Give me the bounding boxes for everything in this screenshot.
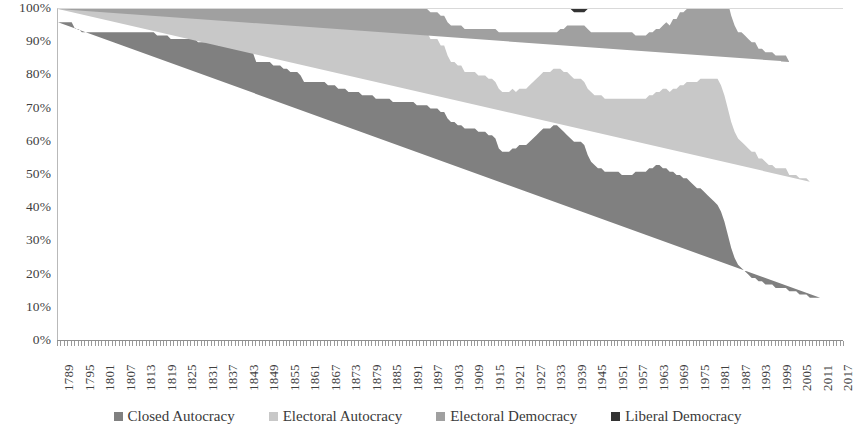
- legend-item[interactable]: Electoral Democracy: [436, 409, 577, 424]
- x-tick-mark: [406, 341, 407, 346]
- x-tick-mark: [751, 341, 752, 346]
- x-tick-mark: [836, 341, 837, 346]
- x-tick-mark: [115, 341, 116, 346]
- legend-item[interactable]: Closed Autocracy: [114, 409, 235, 424]
- x-tick-mark: [474, 341, 475, 346]
- x-tick-mark: [67, 341, 68, 346]
- x-tick-mark: [194, 341, 195, 346]
- x-tick-mark: [190, 341, 191, 346]
- x-tick-mark: [498, 341, 499, 346]
- x-tick-mark: [621, 341, 622, 346]
- x-tick-mark: [730, 341, 731, 346]
- x-tick-label: 2005: [800, 364, 813, 391]
- x-tick-mark: [805, 341, 806, 346]
- x-tick-mark: [201, 341, 202, 346]
- x-tick-mark: [436, 341, 437, 346]
- legend-item[interactable]: Liberal Democracy: [611, 409, 741, 424]
- x-tick-label: 1945: [595, 364, 608, 391]
- x-tick-mark: [587, 341, 588, 346]
- x-tick-mark: [812, 341, 813, 346]
- x-tick-label: 1951: [616, 364, 629, 391]
- x-tick-mark: [283, 341, 284, 346]
- x-tick-mark: [641, 341, 642, 346]
- x-tick-mark: [754, 341, 755, 346]
- x-tick-mark: [224, 341, 225, 346]
- x-tick-mark: [488, 341, 489, 346]
- x-tick-mark: [91, 341, 92, 346]
- x-tick-mark: [310, 341, 311, 346]
- legend-item[interactable]: Electoral Autocracy: [269, 409, 403, 424]
- y-tick-label: 70%: [26, 101, 51, 115]
- x-tick-mark: [122, 341, 123, 346]
- legend-label: Closed Autocracy: [128, 409, 235, 424]
- x-tick-mark: [816, 341, 817, 346]
- x-tick-mark: [617, 341, 618, 346]
- x-tick-mark: [296, 341, 297, 346]
- x-tick-mark: [279, 341, 280, 346]
- x-tick-mark: [471, 341, 472, 346]
- x-tick-mark: [57, 341, 58, 346]
- x-tick-mark: [696, 341, 697, 346]
- legend-swatch-icon: [114, 412, 123, 421]
- x-tick-mark: [248, 341, 249, 346]
- x-tick-mark: [576, 341, 577, 346]
- x-tick-mark: [529, 341, 530, 346]
- x-tick-mark: [313, 341, 314, 346]
- x-tick-label: 1885: [390, 364, 403, 391]
- x-tick-mark: [149, 341, 150, 346]
- x-tick-mark: [330, 341, 331, 346]
- x-tick-mark: [501, 341, 502, 346]
- x-tick-label: 1789: [62, 364, 75, 391]
- x-tick-label: 1957: [636, 364, 649, 391]
- x-tick-label: 1921: [513, 364, 526, 391]
- x-tick-label: 1915: [493, 364, 506, 391]
- x-tick-mark: [108, 341, 109, 346]
- x-tick-label: 1927: [534, 364, 547, 391]
- x-tick-mark: [508, 341, 509, 346]
- x-tick-mark: [412, 341, 413, 346]
- x-tick-mark: [556, 341, 557, 346]
- x-tick-mark: [799, 341, 800, 346]
- x-tick-label: 1999: [780, 364, 793, 391]
- x-axis-labels: 1789179518011807181318191825183118371843…: [57, 347, 843, 397]
- x-tick-mark: [566, 341, 567, 346]
- x-tick-mark: [334, 341, 335, 346]
- x-tick-label: 1873: [349, 364, 362, 391]
- x-tick-label: 1903: [452, 364, 465, 391]
- y-tick-label: 90%: [26, 34, 51, 48]
- legend-swatch-icon: [436, 412, 445, 421]
- x-tick-mark: [231, 341, 232, 346]
- x-tick-mark: [477, 341, 478, 346]
- x-tick-mark: [792, 341, 793, 346]
- x-tick-mark: [829, 341, 830, 346]
- x-tick-mark: [686, 341, 687, 346]
- x-tick-mark: [481, 341, 482, 346]
- x-tick-mark: [631, 341, 632, 346]
- x-tick-mark: [706, 341, 707, 346]
- x-tick-mark: [505, 341, 506, 346]
- x-tick-mark: [84, 341, 85, 346]
- x-tick-mark: [771, 341, 772, 346]
- x-tick-mark: [60, 341, 61, 346]
- x-tick-label: 1987: [739, 364, 752, 391]
- x-tick-mark: [559, 341, 560, 346]
- x-tick-mark: [289, 341, 290, 346]
- y-tick-label: 80%: [26, 67, 51, 81]
- x-tick-mark: [689, 341, 690, 346]
- x-tick-mark: [740, 341, 741, 346]
- x-tick-mark: [494, 341, 495, 346]
- x-tick-mark: [214, 341, 215, 346]
- x-tick-mark: [614, 341, 615, 346]
- regimes-stacked-area-chart: 100%90%80%70%60%50%40%30%20%10%0% 178917…: [0, 0, 855, 437]
- x-tick-mark: [744, 341, 745, 346]
- x-tick-mark: [242, 341, 243, 346]
- x-tick-label: 2011: [821, 365, 834, 391]
- x-tick-mark: [484, 341, 485, 346]
- x-tick-mark: [317, 341, 318, 346]
- x-tick-mark: [177, 341, 178, 346]
- x-tick-mark: [590, 341, 591, 346]
- x-tick-mark: [119, 341, 120, 346]
- x-tick-mark: [269, 341, 270, 346]
- x-tick-mark: [371, 341, 372, 346]
- legend-label: Liberal Democracy: [625, 409, 741, 424]
